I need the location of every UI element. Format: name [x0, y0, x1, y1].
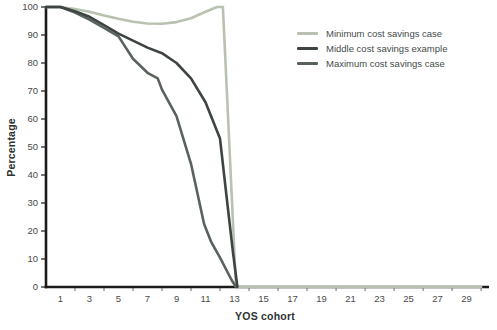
y-tick-label: 80	[27, 57, 38, 68]
legend-label-maximum: Maximum cost savings case	[326, 58, 445, 69]
x-tick-label: 9	[174, 293, 179, 304]
x-tick-label: 29	[461, 293, 472, 304]
y-tick-label: 50	[27, 141, 38, 152]
y-tick-label: 40	[27, 169, 38, 180]
series-line-middle	[46, 7, 237, 287]
x-axis-title: YOS cohort	[46, 310, 484, 322]
y-axis-title: Percentage	[5, 116, 18, 180]
y-tick-label: 30	[27, 197, 38, 208]
legend-swatch-maximum-icon	[297, 62, 318, 65]
x-tick-label: 1	[58, 293, 63, 304]
legend-item-minimum: Minimum cost savings case	[297, 26, 447, 41]
y-tick-label: 60	[27, 113, 38, 124]
x-tick-label: 25	[403, 293, 414, 304]
y-tick-label: 20	[27, 225, 38, 236]
x-tick-label: 7	[145, 293, 150, 304]
y-tick-label: 70	[27, 85, 38, 96]
x-tick-label: 27	[432, 293, 443, 304]
y-tick-label: 90	[27, 29, 38, 40]
legend-swatch-middle-icon	[297, 47, 318, 50]
y-tick-label: 0	[33, 281, 38, 292]
chart-figure: Percentage 01020304050607080901001357911…	[0, 0, 497, 330]
series-line-maximum	[46, 7, 236, 287]
y-tick-label: 10	[27, 253, 38, 264]
legend-item-middle: Middle cost savings example	[297, 41, 447, 56]
legend: Minimum cost savings case Middle cost sa…	[297, 26, 447, 71]
x-tick-label: 17	[287, 293, 298, 304]
x-tick-label: 11	[201, 293, 211, 304]
legend-swatch-minimum-icon	[297, 32, 318, 35]
legend-label-minimum: Minimum cost savings case	[326, 28, 442, 39]
legend-label-middle: Middle cost savings example	[326, 43, 447, 54]
x-tick-label: 15	[258, 293, 269, 304]
x-tick-label: 23	[374, 293, 385, 304]
x-tick-label: 5	[116, 293, 121, 304]
x-tick-label: 13	[229, 293, 240, 304]
x-tick-label: 21	[345, 293, 356, 304]
x-tick-label: 3	[87, 293, 92, 304]
legend-item-maximum: Maximum cost savings case	[297, 56, 447, 71]
y-tick-label: 100	[22, 1, 38, 12]
x-tick-label: 19	[316, 293, 327, 304]
